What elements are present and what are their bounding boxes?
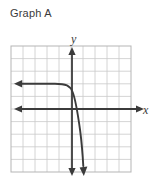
graph-svg: y x <box>0 0 158 189</box>
x-axis-label: x <box>142 103 149 117</box>
graph-figure: Graph A <box>0 0 158 189</box>
coordinate-plane: y x <box>0 0 158 189</box>
y-axis-label: y <box>70 32 77 46</box>
